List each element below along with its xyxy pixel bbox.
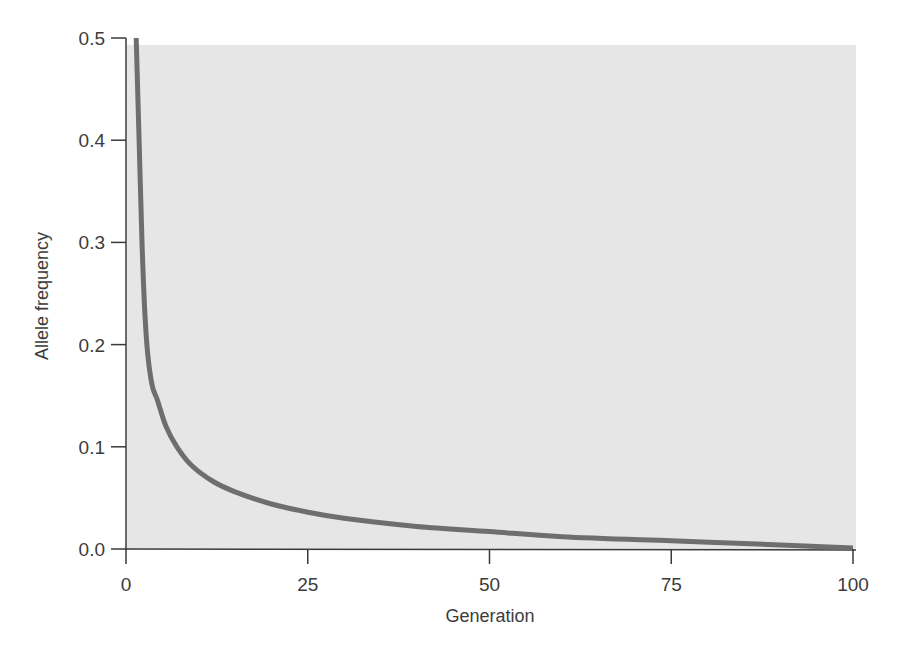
y-tick-label: 0.4 <box>79 130 106 151</box>
x-tick-label: 50 <box>479 574 500 595</box>
y-tick-label: 0.2 <box>79 335 105 356</box>
x-axis-title: Generation <box>445 606 534 626</box>
y-tick-label: 0.1 <box>79 437 105 458</box>
y-axis-ticks: 0.00.10.20.30.40.5 <box>79 28 126 560</box>
allele-frequency-chart: 0255075100 0.00.10.20.30.40.5 Generation… <box>0 0 903 651</box>
y-tick-label: 0.5 <box>79 28 105 49</box>
x-tick-label: 100 <box>837 574 869 595</box>
x-axis-ticks: 0255075100 <box>121 549 869 595</box>
x-tick-label: 75 <box>661 574 682 595</box>
y-tick-label: 0.3 <box>79 232 105 253</box>
y-tick-label: 0.0 <box>79 539 105 560</box>
y-axis-title: Allele frequency <box>32 232 52 360</box>
x-tick-label: 0 <box>121 574 132 595</box>
x-axis-line <box>125 549 856 550</box>
plot-background <box>127 45 856 549</box>
x-tick-label: 25 <box>297 574 318 595</box>
